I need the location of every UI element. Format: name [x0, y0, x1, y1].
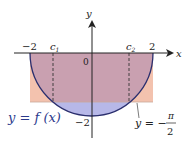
c1-label: c1: [50, 41, 59, 53]
tick-2: 2: [149, 41, 155, 52]
figure: y x −2 2 0 −2 c1 c2 y = f (x) y = − π 2: [0, 0, 186, 145]
tick-neg2: −2: [22, 41, 37, 52]
line-label-den: 2: [167, 126, 173, 137]
curve-label: y = f (x): [7, 110, 61, 125]
x-axis-label: x: [176, 48, 182, 59]
leader-line: [137, 103, 139, 118]
origin-label: 0: [83, 57, 89, 67]
line-label-num: π: [167, 111, 175, 121]
y-tick-neg2: −2: [75, 117, 90, 128]
y-axis-label: y: [85, 8, 92, 19]
c2-label: c2: [126, 41, 136, 53]
line-label-lhs: y = −: [134, 117, 167, 130]
